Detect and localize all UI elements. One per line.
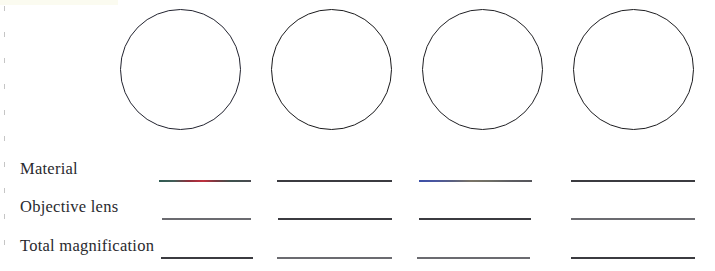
field-of-view-circle-1[interactable] <box>120 9 241 130</box>
table-row: Total magnification <box>0 235 715 271</box>
answer-line-objective-lens-1[interactable] <box>162 218 251 220</box>
table-row: Material <box>0 158 715 196</box>
answer-line-total-magnification-3[interactable] <box>417 257 530 259</box>
field-of-view-circle-2[interactable] <box>271 9 392 130</box>
field-of-view-circle-3[interactable] <box>422 9 543 130</box>
answer-table: Material Objective lens Total magnificat… <box>0 150 715 271</box>
answer-line-total-magnification-2[interactable] <box>277 257 392 259</box>
field-of-view-circles-row <box>0 0 715 140</box>
table-row: Objective lens <box>0 196 715 234</box>
field-of-view-circle-4[interactable] <box>573 9 694 130</box>
answer-line-material-2[interactable] <box>277 180 392 182</box>
answer-line-objective-lens-3[interactable] <box>419 218 531 220</box>
answer-line-total-magnification-4[interactable] <box>571 257 695 259</box>
answer-line-objective-lens-2[interactable] <box>278 218 392 220</box>
answer-line-material-3[interactable] <box>419 180 532 182</box>
row-label-total-magnification: Total magnification <box>20 235 154 257</box>
row-label-material: Material <box>20 158 78 180</box>
row-label-objective-lens: Objective lens <box>20 196 118 218</box>
answer-line-material-4[interactable] <box>571 180 695 182</box>
answer-line-material-1[interactable] <box>159 180 251 182</box>
answer-line-total-magnification-1[interactable] <box>161 257 253 259</box>
worksheet-page: Material Objective lens Total magnificat… <box>0 0 715 271</box>
answer-line-objective-lens-4[interactable] <box>571 218 695 220</box>
